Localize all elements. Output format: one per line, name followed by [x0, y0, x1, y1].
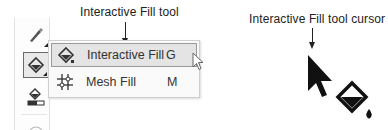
callout-interactive-fill-tool: Interactive Fill tool — [80, 5, 179, 19]
mouse-pointer-icon — [192, 52, 206, 72]
menu-item-shortcut: M — [167, 75, 197, 89]
menu-item-mesh-fill[interactable]: Mesh Fill M — [51, 70, 197, 94]
callout-interactive-fill-cursor: Interactive Fill tool cursor — [249, 12, 385, 26]
fill-tools-flyout: Interactive Fill G Mesh Fill M — [48, 40, 200, 98]
partially-visible-tool[interactable] — [23, 118, 49, 130]
flyout-indicator — [43, 72, 47, 76]
callout-cursor-arrow-line — [312, 28, 313, 43]
mesh-fill-icon — [54, 71, 76, 93]
fill-bucket-icon — [55, 44, 77, 66]
callout-cursor-arrow-head — [309, 42, 315, 49]
menu-item-interactive-fill[interactable]: Interactive Fill G — [51, 43, 197, 67]
toolbox — [14, 18, 50, 130]
pen-icon — [27, 26, 45, 44]
smart-fill-icon — [26, 88, 46, 106]
menu-item-label: Mesh Fill — [86, 75, 167, 89]
menu-item-label: Interactive Fill — [87, 48, 166, 62]
interactive-fill-tool[interactable] — [23, 52, 49, 78]
tool-icon — [27, 122, 45, 130]
interactive-fill-cursor-icon — [306, 55, 376, 121]
toolbox-divider — [21, 114, 47, 115]
pen-tool[interactable] — [23, 22, 49, 48]
smart-fill-tool[interactable] — [23, 84, 49, 110]
